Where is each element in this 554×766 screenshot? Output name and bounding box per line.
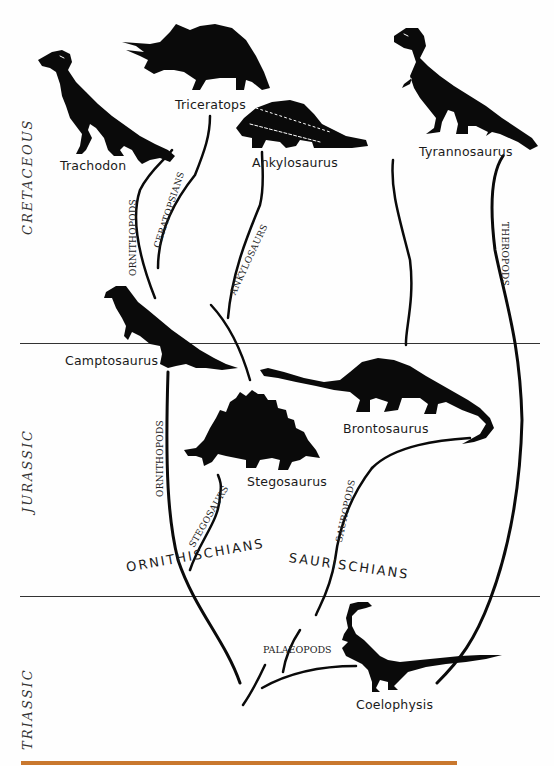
label-triceratops: Triceratops (175, 97, 246, 112)
dinosaur-evolution-diagram: CRETACEOUS JURASSIC TRIASSIC Trachodon T… (0, 0, 554, 766)
lineage-label-theropods: THEROPODS (500, 222, 510, 286)
triceratops-silhouette (122, 24, 270, 90)
label-stegosaurus: Stegosaurus (247, 474, 327, 489)
coelophysis-stem-line (262, 666, 356, 688)
label-ankylosaurus: Ankylosaurus (252, 155, 338, 170)
coelophysis-silhouette (342, 602, 502, 692)
tyrannosaurus-silhouette (394, 28, 538, 150)
label-tyrannosaurus: Tyrannosaurus (419, 144, 513, 159)
lineage-label-ornithopods-upper: ORNITHOPODS (128, 199, 138, 276)
lineage-label-ornithopods-lower: ORNITHOPODS (155, 420, 165, 497)
period-label-triassic: TRIASSIC (20, 668, 35, 750)
ceratopsians-branch-line (158, 116, 210, 268)
bottom-accent-bar (21, 761, 457, 765)
ankylosaurus-silhouette (236, 100, 368, 148)
label-trachodon: Trachodon (60, 158, 126, 173)
label-camptosaurus: Camptosaurus (65, 353, 158, 368)
tyrannosaurus-branch-line (392, 160, 411, 345)
brontosaurus-tail-connector (372, 438, 470, 468)
period-label-cretaceous: CRETACEOUS (20, 118, 35, 235)
period-label-jurassic: JURASSIC (20, 429, 35, 513)
stegosaurus-silhouette (184, 390, 320, 470)
label-brontosaurus: Brontosaurus (343, 421, 429, 436)
palaeopods-branch-line (243, 665, 265, 705)
lineage-label-palaeopods: PALAEOPODS (263, 644, 332, 655)
label-coelophysis: Coelophysis (356, 697, 433, 712)
